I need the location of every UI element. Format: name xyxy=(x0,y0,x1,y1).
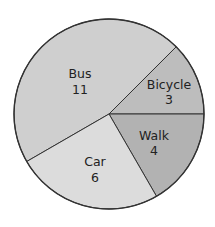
slice-label-car: Car xyxy=(84,154,106,169)
slice-label-walk: Walk xyxy=(139,128,170,143)
slice-label-bus: Bus xyxy=(68,66,91,81)
pie-chart: Bus11Bicycle3Walk4Car6 xyxy=(0,0,215,227)
slice-label-bicycle: Bicycle xyxy=(147,77,192,92)
slice-value-car: 6 xyxy=(91,170,99,185)
slice-value-bus: 11 xyxy=(72,82,88,97)
slice-value-bicycle: 3 xyxy=(165,92,173,107)
slice-value-walk: 4 xyxy=(150,143,158,158)
pie-slices xyxy=(14,19,204,209)
